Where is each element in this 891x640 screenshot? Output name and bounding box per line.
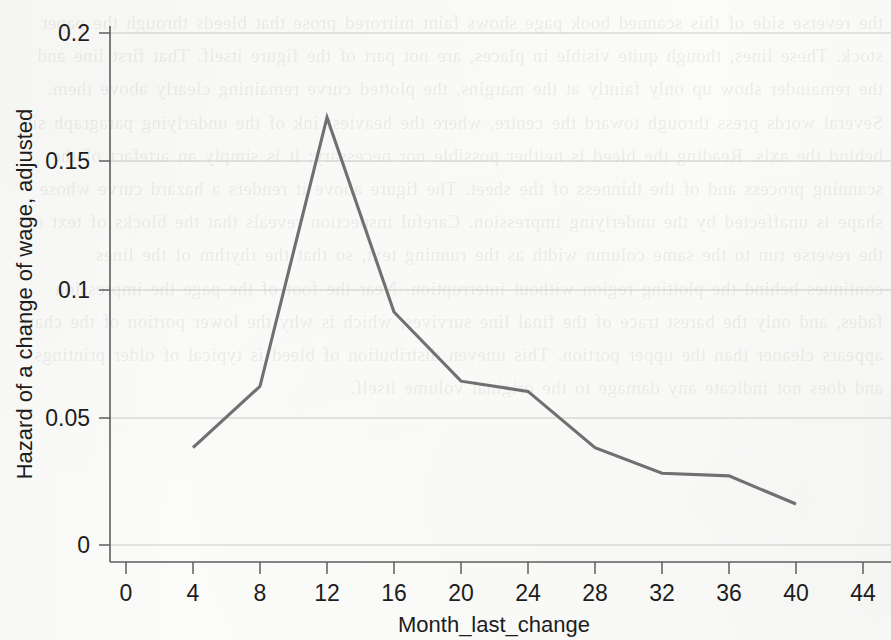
x-tick-label-4: 4: [187, 580, 200, 606]
x-axis: 0 4 8 12 16 20 24 28 32 36 40 44 Month_l…: [110, 562, 891, 637]
y-tick-label-0.1: 0.1: [58, 277, 90, 303]
x-axis-title: Month_last_change: [398, 612, 590, 637]
x-tick-label-32: 32: [649, 580, 675, 606]
gridlines: [110, 33, 891, 545]
x-tick-label-0: 0: [120, 580, 133, 606]
hazard-line-chart: 0.2 0.15 0.1 0.05 0 Hazard of a change o…: [0, 0, 891, 640]
x-tick-label-24: 24: [515, 580, 541, 606]
x-tick-label-28: 28: [582, 580, 608, 606]
y-axis-title: Hazard of a change of wage, adjusted: [12, 109, 37, 480]
hazard-series-line: [193, 117, 796, 504]
x-tick-label-40: 40: [783, 580, 809, 606]
x-tick-label-12: 12: [314, 580, 340, 606]
x-tick-label-36: 36: [716, 580, 742, 606]
y-tick-label-0.2: 0.2: [58, 20, 90, 46]
x-tick-label-8: 8: [254, 580, 267, 606]
y-tick-label-0.15: 0.15: [45, 148, 90, 174]
scanned-figure-page: the reverse side of this scanned book pa…: [0, 0, 891, 640]
x-tick-label-44: 44: [850, 580, 876, 606]
x-tick-label-20: 20: [448, 580, 474, 606]
y-axis: 0.2 0.15 0.1 0.05 0 Hazard of a change o…: [12, 20, 110, 562]
y-tick-label-0.05: 0.05: [45, 405, 90, 431]
y-tick-label-0: 0: [77, 532, 90, 558]
x-tick-label-16: 16: [381, 580, 407, 606]
